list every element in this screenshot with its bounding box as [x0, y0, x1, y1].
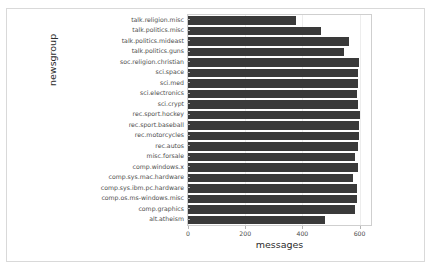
y-tick-mark [187, 208, 190, 209]
bar [188, 153, 355, 162]
bar-row [188, 183, 371, 194]
y-tick-label: sci.electronics [4, 89, 184, 96]
y-tick-mark [187, 198, 190, 199]
bar [188, 111, 360, 120]
y-tick-mark [187, 177, 190, 178]
y-tick-mark [187, 124, 190, 125]
bar-row [188, 173, 371, 184]
chart-figure: talk.religion.misctalk.politics.misctalk… [0, 0, 440, 274]
bar [188, 58, 359, 67]
y-tick-label: comp.sys.mac.hardware [4, 173, 184, 180]
y-tick-mark [187, 30, 190, 31]
bar [188, 132, 359, 141]
bar-row [188, 15, 371, 26]
y-tick-mark [187, 82, 190, 83]
x-tick-mark [245, 226, 246, 229]
y-tick-label: rec.sport.hockey [4, 110, 184, 117]
bar [188, 90, 357, 99]
y-tick-mark [187, 61, 190, 62]
x-tick-mark [302, 226, 303, 229]
bar-row [188, 78, 371, 89]
x-tick-label: 400 [296, 230, 308, 237]
bar-row [188, 36, 371, 47]
y-tick-mark [187, 40, 190, 41]
bar-row [188, 131, 371, 142]
y-tick-label: comp.os.ms-windows.misc [4, 194, 184, 201]
y-tick-label: comp.graphics [4, 205, 184, 212]
bar [188, 121, 359, 130]
y-tick-label: comp.sys.ibm.pc.hardware [4, 184, 184, 191]
y-tick-mark [187, 219, 190, 220]
y-tick-label: sci.space [4, 68, 184, 75]
y-tick-label: talk.religion.misc [4, 16, 184, 23]
y-tick-label: talk.politics.misc [4, 26, 184, 33]
x-tick-label: 0 [186, 230, 190, 237]
bar [188, 69, 358, 78]
y-tick-mark [187, 19, 190, 20]
y-axis-tick-labels: talk.religion.misctalk.politics.misctalk… [3, 14, 184, 226]
bar [188, 79, 358, 88]
y-tick-label: sci.crypt [4, 100, 184, 107]
x-tick-label: 600 [354, 230, 366, 237]
y-tick-mark [187, 51, 190, 52]
bar [188, 27, 321, 36]
bar [188, 184, 357, 193]
y-tick-label: sci.med [4, 79, 184, 86]
x-axis-title: messages [187, 239, 372, 250]
y-tick-label: rec.sport.baseball [4, 121, 184, 128]
y-tick-mark [187, 114, 190, 115]
bar [188, 195, 357, 204]
bar [188, 142, 358, 151]
y-tick-mark [187, 187, 190, 188]
bar-row [188, 47, 371, 58]
bar [188, 48, 344, 57]
bar-row [188, 57, 371, 68]
bar [188, 174, 353, 183]
bar-row [188, 152, 371, 163]
y-tick-label: rec.autos [4, 142, 184, 149]
y-tick-label: rec.motorcycles [4, 131, 184, 138]
bar-row [188, 26, 371, 37]
bar-row [188, 89, 371, 100]
bar-row [188, 141, 371, 152]
bar [188, 163, 358, 172]
bar-row [188, 99, 371, 110]
bar [188, 216, 325, 225]
y-tick-label: soc.religion.christian [4, 58, 184, 65]
y-tick-mark [187, 145, 190, 146]
y-tick-label: alt.atheism [4, 215, 184, 222]
bar [188, 37, 349, 46]
y-tick-label: comp.windows.x [4, 163, 184, 170]
bar [188, 100, 358, 109]
y-tick-mark [187, 135, 190, 136]
y-tick-mark [187, 103, 190, 104]
bar-row [188, 110, 371, 121]
x-tick-mark [188, 226, 189, 229]
bar-row [188, 215, 371, 226]
x-tick-label: 200 [239, 230, 251, 237]
bar-row [188, 204, 371, 215]
y-tick-mark [187, 72, 190, 73]
y-tick-mark [187, 93, 190, 94]
y-tick-mark [187, 156, 190, 157]
y-tick-label: talk.politics.mideast [4, 37, 184, 44]
y-tick-label: talk.politics.guns [4, 47, 184, 54]
bar-row [188, 68, 371, 79]
y-tick-mark [187, 166, 190, 167]
bar [188, 205, 355, 214]
bar-row [188, 194, 371, 205]
y-tick-label: misc.forsale [4, 152, 184, 159]
bar [188, 16, 296, 25]
y-axis-title: newsgroup [47, 34, 58, 86]
bar-row [188, 162, 371, 173]
bar-row [188, 120, 371, 131]
x-tick-mark [360, 226, 361, 229]
plot-area [187, 14, 372, 226]
